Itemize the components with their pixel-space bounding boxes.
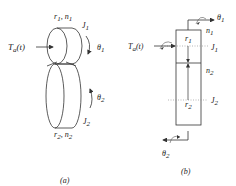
theta-1-label-a: θ1 [97, 43, 104, 54]
theta-1-rotation-arrowhead-icon [197, 22, 200, 25]
torque-label-a: Ta(t) [8, 42, 25, 54]
r1-label: r1 [185, 34, 192, 45]
r2-label: r2 [185, 100, 192, 111]
theta-2-rotation-arrowhead-icon [177, 135, 180, 139]
torque-label-b: Ta(t) [128, 42, 144, 53]
torque-rotation-arrowhead-icon [161, 47, 164, 50]
gear-2-cylinder [46, 62, 81, 128]
theta-2-shaft [163, 131, 188, 140]
J2-label-b: J2 [211, 96, 219, 107]
inertia-2-label-a: J2 [83, 117, 91, 128]
J1-label-b: J1 [211, 43, 218, 54]
gear-1-cylinder [47, 28, 82, 64]
n1-label: n1 [206, 26, 214, 37]
inertia-1-label-a: J1 [82, 21, 89, 32]
gear-train-diagram: Ta(t) r1, n1 J1 θ1 θ2 J2 r2, n2 (a) r1 r… [0, 0, 236, 186]
gear-1-label: r1, n1 [54, 12, 72, 23]
theta-1-arrow-a [86, 36, 90, 54]
theta-2-arrow-a [90, 89, 92, 108]
caption-a: (a) [60, 176, 70, 185]
n2-label: n2 [206, 66, 214, 77]
panel-a: Ta(t) r1, n1 J1 θ1 θ2 J2 r2, n2 (a) [8, 12, 105, 185]
panel-b: r1 r2 θ1 n1 J1 n2 J2 Ta(t) θ2 (b) [128, 13, 224, 176]
caption-b: (b) [181, 167, 191, 176]
theta-2-label-b: θ2 [162, 149, 170, 160]
theta-2-label-a: θ2 [97, 93, 105, 104]
gear-2-label: r2, n2 [54, 130, 73, 141]
theta-1-label-b: θ1 [217, 13, 224, 24]
